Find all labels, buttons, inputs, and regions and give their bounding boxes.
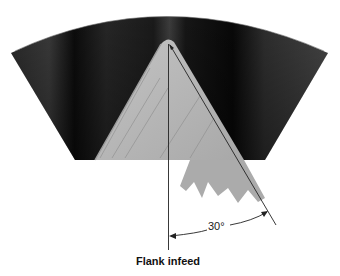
angle-label: 30° [208, 220, 225, 232]
chip [180, 160, 265, 203]
arrowhead-right-icon [261, 211, 268, 217]
arrowhead-left-icon [169, 233, 176, 239]
flank-infeed-diagram [0, 0, 340, 276]
figure-caption: Flank infeed [118, 255, 218, 267]
